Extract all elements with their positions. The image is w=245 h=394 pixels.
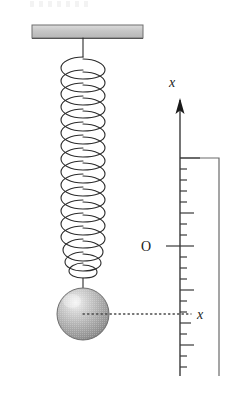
coil-spring: [61, 38, 105, 292]
axis-positive-label: x: [168, 75, 176, 90]
displacement-label: x: [196, 307, 204, 322]
diagram-canvas: x O x: [0, 0, 245, 394]
origin-label: O: [141, 239, 151, 254]
spring-mass-diagram: x O x: [0, 0, 245, 394]
ceiling-bar: [32, 25, 143, 38]
axis-tick-marks: [166, 158, 200, 367]
ball-highlight: [63, 294, 81, 308]
ceiling-support: [32, 25, 143, 39]
